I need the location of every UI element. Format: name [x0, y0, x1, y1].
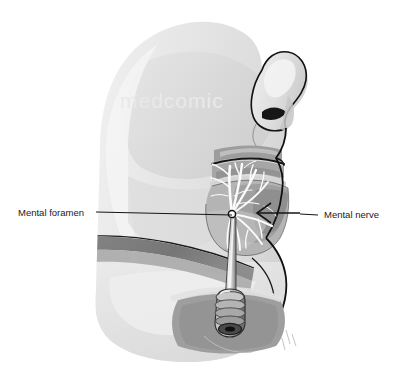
hub-bore	[225, 326, 235, 331]
mental-foramen-marker	[228, 210, 235, 217]
needle-hub	[215, 289, 245, 337]
illustration-canvas: medcomic	[0, 0, 399, 375]
label-mental-foramen: Mental foramen	[18, 207, 84, 218]
foramen-point	[228, 210, 235, 217]
anatomical-figure: medcomic	[0, 0, 399, 375]
stubble-marks	[282, 330, 296, 350]
watermark-label: medcomic	[120, 89, 224, 112]
leader-mental-nerve	[300, 214, 318, 215]
watermark: medcomic	[120, 89, 224, 112]
label-mental-nerve: Mental nerve	[324, 209, 379, 220]
